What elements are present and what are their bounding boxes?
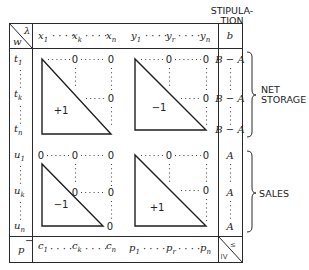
- ellipsis: · · · ·: [52, 30, 74, 41]
- row-label-p: p: [18, 244, 25, 255]
- zero: 0: [166, 54, 172, 65]
- corner-w: w: [13, 36, 22, 47]
- block-bottom-left: 0 0 0 0 0 0 −1: [38, 150, 114, 232]
- row-labels-sales: u1 uk un: [14, 149, 25, 234]
- relation-leq: ≤: [230, 241, 236, 249]
- col-xk: xk: [72, 30, 82, 44]
- brace-net-storage: [247, 52, 256, 137]
- stipulation-label-line2: TION: [219, 15, 243, 26]
- block-value: −1: [152, 102, 167, 113]
- ellipsis: · · · ·: [50, 243, 72, 254]
- zero: 0: [203, 150, 209, 161]
- zero: 0: [72, 54, 78, 65]
- ellipsis: · · · ·: [178, 243, 200, 254]
- lower-triangle: [42, 59, 111, 134]
- column-headers: x1 · · · · xk · · · · xn y1 · · · · yr ·…: [38, 30, 233, 44]
- ellipsis: · · · ·: [85, 30, 107, 41]
- price-p1: p1: [129, 242, 140, 256]
- price-pr: pr: [166, 242, 176, 256]
- row-un: un: [14, 220, 25, 234]
- row-label-mark: −: [25, 235, 33, 246]
- zero: 0: [108, 150, 114, 161]
- cost-cn: cn: [106, 240, 117, 254]
- col-xn: xn: [106, 30, 117, 44]
- stip-net-storage: B − A: [214, 54, 244, 65]
- stip-sales: A: [225, 187, 233, 198]
- zero: 0: [38, 150, 44, 161]
- row-t1: t1: [14, 53, 23, 67]
- col-b: b: [227, 30, 233, 41]
- block-bottom-right: 0 0 0 +1: [135, 150, 209, 226]
- zero: 0: [108, 187, 114, 198]
- zero: 0: [203, 93, 209, 104]
- block-value: +1: [150, 202, 165, 213]
- row-tn: tn: [14, 123, 23, 137]
- relation-geq: IV: [221, 253, 228, 261]
- zero: 0: [203, 185, 209, 196]
- ellipsis: · · · ·: [178, 30, 200, 41]
- ellipsis: · · · ·: [85, 243, 107, 254]
- stip-net-storage: B − A: [214, 93, 244, 104]
- tableau-svg: STIPULA- TION λ w x1 · · · · xk · · · · …: [0, 0, 309, 270]
- block-value: −1: [54, 199, 69, 210]
- col-x1: x1: [38, 30, 48, 44]
- zero: 0: [108, 93, 114, 104]
- corner-lambda: λ: [23, 25, 30, 36]
- row-u1: u1: [14, 149, 25, 163]
- zero: 0: [107, 221, 113, 232]
- price-pn: pn: [200, 242, 211, 256]
- lower-triangle: [135, 155, 206, 226]
- ellipsis: · · · ·: [145, 30, 167, 41]
- brace-sales: [247, 151, 256, 232]
- zero: 0: [203, 54, 209, 65]
- group-label-sales: SALES: [259, 188, 289, 199]
- col-yn: yn: [199, 30, 211, 44]
- block-value: +1: [54, 105, 69, 116]
- col-y1: y1: [130, 30, 141, 44]
- col-yr: yr: [165, 30, 176, 44]
- lp-tableau-diagram: STIPULA- TION λ w x1 · · · · xk · · · · …: [0, 0, 309, 270]
- cost-ck: ck: [72, 240, 82, 254]
- zero: 0: [108, 54, 114, 65]
- row-labels-net-storage: t1 tk tn: [14, 53, 23, 137]
- stip-sales: A: [225, 221, 233, 232]
- row-tk: tk: [14, 88, 22, 102]
- zero: 0: [166, 150, 172, 161]
- zero: 0: [72, 187, 78, 198]
- zero: 0: [72, 150, 78, 161]
- row-uk: uk: [14, 185, 25, 199]
- footer-row: p − c1 · · · · ck · · · · cn p1 · · · · …: [18, 235, 243, 263]
- ellipsis: · · · ·: [143, 243, 165, 254]
- stip-sales: A: [225, 150, 233, 161]
- block-top-left: 0 0 0 +1: [42, 54, 114, 134]
- cost-c1: c1: [38, 240, 48, 254]
- group-label-storage: STORAGE: [261, 94, 306, 105]
- lower-triangle: [135, 59, 206, 130]
- stip-net-storage: B − A: [214, 124, 244, 135]
- block-top-right: 0 0 0 −1: [135, 54, 209, 130]
